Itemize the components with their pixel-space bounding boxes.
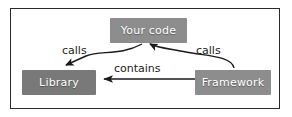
edge-label-calls-right: calls	[196, 44, 221, 57]
node-your-code-label: Your code	[121, 24, 176, 37]
diagram-canvas: Your code Library Framework calls calls …	[0, 0, 292, 117]
node-your-code[interactable]: Your code	[110, 18, 187, 43]
node-framework[interactable]: Framework	[195, 70, 271, 95]
node-framework-label: Framework	[202, 76, 265, 89]
edge-label-calls-left: calls	[62, 44, 87, 57]
node-library-label: Library	[39, 76, 79, 89]
edge-label-contains: contains	[114, 62, 161, 75]
node-library[interactable]: Library	[22, 70, 96, 95]
